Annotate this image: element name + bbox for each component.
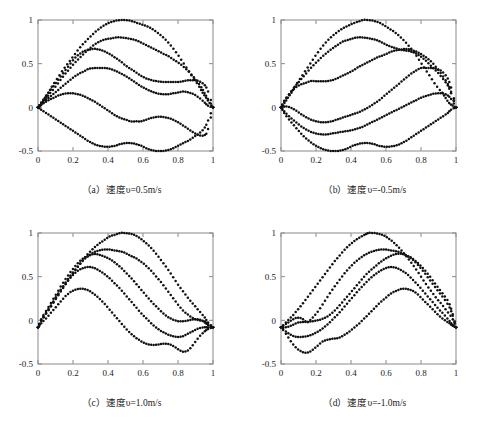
y-tick-label: 0.5 [22, 272, 34, 282]
y-tick-label: -0.5 [262, 146, 277, 156]
x-tick-label: 0.8 [172, 368, 184, 378]
x-tick-label: 1 [211, 155, 216, 165]
x-tick-label: 0 [279, 155, 284, 165]
series-mode-3 [37, 48, 215, 109]
x-tick-label: 0.4 [102, 155, 114, 165]
y-tick-label: 0 [272, 316, 277, 326]
y-tick-label: 1 [272, 15, 277, 25]
y-tick-label: -0.5 [19, 146, 34, 156]
x-tick-label: 0.2 [310, 155, 321, 165]
panel-b-plot: 00.20.40.60.81-0.500.51 [243, 4, 486, 179]
x-tick-label: 0 [36, 155, 41, 165]
panel-a-plot: 00.20.40.60.81-0.500.51 [0, 4, 243, 179]
x-tick-label: 0.6 [380, 368, 392, 378]
panel-c: 00.20.40.60.81-0.500.51 （c）速度υ=1.0m/s [0, 217, 243, 428]
x-tick-label: 0.2 [67, 155, 78, 165]
panel-b-caption: （b）速度υ=-0.5m/s [243, 182, 486, 196]
y-tick-label: 0 [29, 103, 34, 113]
panel-d-caption: （d）速度υ=-1.0m/s [243, 395, 486, 409]
panel-c-plot: 00.20.40.60.81-0.500.51 [0, 217, 243, 392]
panel-a: 00.20.40.60.81-0.500.51 （a）速度υ=0.5m/s [0, 4, 243, 215]
x-tick-label: 0.8 [415, 368, 427, 378]
y-tick-label: 0 [29, 316, 34, 326]
y-tick-label: -0.5 [262, 359, 277, 369]
series-mode-5 [37, 92, 215, 137]
y-tick-label: 1 [29, 15, 34, 25]
x-tick-label: 1 [454, 155, 459, 165]
y-tick-label: 0.5 [265, 59, 277, 69]
y-tick-label: 0.5 [22, 59, 34, 69]
series-mode-2 [280, 248, 458, 328]
series-mode-2 [280, 36, 458, 108]
y-tick-label: -0.5 [19, 359, 34, 369]
plot-frame [281, 20, 456, 151]
x-tick-label: 0.2 [310, 368, 321, 378]
x-tick-label: 0.6 [380, 155, 392, 165]
y-tick-label: 1 [272, 228, 277, 238]
x-tick-label: 0.4 [102, 368, 114, 378]
y-tick-label: 1 [29, 228, 34, 238]
panel-d: 00.20.40.60.81-0.500.51 （d）速度υ=-1.0m/s [243, 217, 486, 428]
panel-b: 00.20.40.60.81-0.500.51 （b）速度υ=-0.5m/s [243, 4, 486, 215]
series-mode-3 [280, 48, 458, 109]
figure-root: 00.20.40.60.81-0.500.51 （a）速度υ=0.5m/s 00… [0, 0, 486, 429]
panel-d-plot: 00.20.40.60.81-0.500.51 [243, 217, 486, 392]
x-tick-label: 1 [211, 368, 216, 378]
x-tick-label: 0.8 [172, 155, 184, 165]
x-tick-label: 0.2 [67, 368, 78, 378]
series-mode-4 [37, 266, 215, 338]
x-tick-label: 0.4 [345, 368, 357, 378]
x-tick-label: 0 [279, 368, 284, 378]
y-tick-label: 0.5 [265, 272, 277, 282]
series-mode-3 [37, 253, 215, 329]
x-tick-label: 0.4 [345, 155, 357, 165]
x-tick-label: 0.6 [137, 368, 149, 378]
x-tick-label: 0 [36, 368, 41, 378]
series-mode-5 [280, 92, 458, 136]
panel-c-caption: （c）速度υ=1.0m/s [0, 395, 243, 409]
x-tick-label: 1 [454, 368, 459, 378]
y-tick-label: 0 [272, 103, 277, 113]
x-tick-label: 0.6 [137, 155, 149, 165]
panel-a-caption: （a）速度υ=0.5m/s [0, 182, 243, 196]
x-tick-label: 0.8 [415, 155, 427, 165]
